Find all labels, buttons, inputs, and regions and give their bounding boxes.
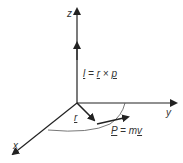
z-axis-label: z bbox=[67, 9, 72, 19]
diagram-canvas bbox=[0, 0, 183, 163]
position-vector-label: r bbox=[74, 113, 77, 123]
x-axis bbox=[13, 103, 77, 154]
angular-momentum-equation: l = r × p bbox=[83, 69, 117, 79]
momentum-vector bbox=[97, 117, 128, 124]
momentum-equation: P = mv bbox=[111, 126, 142, 136]
x-axis-label: x bbox=[13, 141, 18, 151]
position-vector bbox=[77, 103, 94, 120]
y-axis-label: y bbox=[166, 108, 171, 118]
